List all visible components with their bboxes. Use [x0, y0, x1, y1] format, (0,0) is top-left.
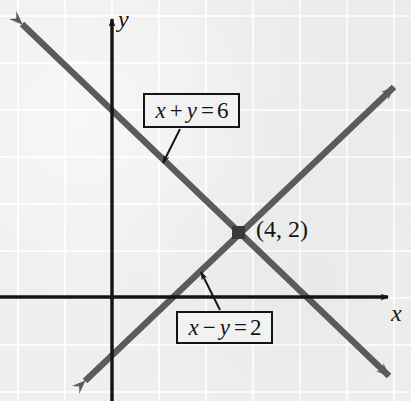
equation-diff-var-y: y [219, 315, 231, 341]
equation-label-x-minus-y: x−y=2 [176, 311, 273, 344]
equation-diff-rhs: 2 [250, 315, 262, 341]
intersection-point-label: (4, 2) [256, 216, 308, 243]
equation-diff-var-x: x [188, 315, 200, 341]
equation-sum-var-x: x [155, 98, 167, 124]
equation-sum-rhs: 6 [217, 98, 229, 124]
equation-sum-equals: = [198, 98, 217, 124]
equation-diff-operator: − [200, 315, 219, 341]
equation-sum-operator: + [167, 98, 186, 124]
equation-sum-var-y: y [186, 98, 198, 124]
y-axis-label: y [118, 6, 129, 33]
leader-line-diff [201, 272, 220, 310]
x-axis-label: x [391, 300, 402, 327]
leader-line-sum [163, 129, 180, 163]
equation-label-x-plus-y: x+y=6 [143, 93, 240, 128]
graph-figure: x+y=6 x−y=2 y x (4, 2) [0, 0, 411, 401]
equation-diff-equals: = [231, 315, 250, 341]
intersection-point-marker [232, 226, 245, 239]
